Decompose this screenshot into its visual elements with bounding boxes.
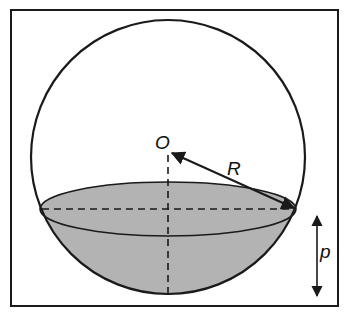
- spherical-cap: [20, 182, 320, 309]
- depth-label: p: [319, 241, 331, 262]
- center-label: O: [155, 132, 170, 153]
- radius-label: R: [227, 158, 241, 179]
- sphere-diagram: O R p: [0, 0, 348, 319]
